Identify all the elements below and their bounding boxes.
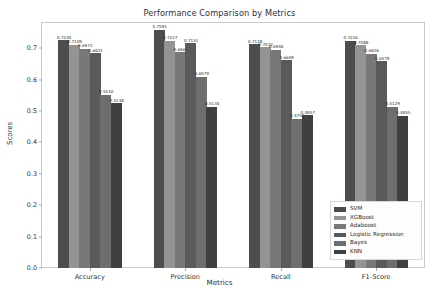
bar-value-label: 0.6828 [365, 49, 379, 53]
bar: 0.5510 [100, 95, 111, 268]
legend-label: Adaboost [350, 223, 376, 229]
y-axis-tick-label: 0.2 [27, 201, 42, 209]
bar: 0.4758 [291, 119, 302, 268]
chart-figure: Performance Comparison by Metrics Scores… [0, 0, 439, 298]
bar: 0.5238 [111, 103, 122, 268]
legend-swatch-icon [334, 224, 346, 229]
legend-item-logistic-regression[interactable]: Logistic Regression [334, 231, 417, 240]
bar-value-label: 0.4857 [301, 111, 315, 115]
bar: 0.5134 [206, 107, 217, 268]
x-axis-label: Metrics [0, 278, 439, 287]
bar-value-label: 0.6579 [375, 57, 389, 61]
bar: 0.4857 [302, 115, 313, 268]
legend-item-adaboost[interactable]: Adaboost [334, 222, 417, 231]
legend-label: XGBoost [350, 215, 374, 221]
legend-label: SVM [350, 206, 362, 212]
bar: 0.7151 [185, 43, 196, 268]
bar-value-label: 0.6609 [280, 56, 294, 60]
y-axis-label: Scores [6, 122, 14, 145]
legend: SVMXGBoostAdaboostLogistic RegressionBay… [330, 201, 422, 260]
bar-value-label: 0.7088 [354, 41, 368, 45]
bar: 0.7245 [58, 40, 69, 268]
bar: 0.6973 [79, 49, 90, 268]
bar-value-label: 0.6831 [89, 49, 103, 53]
bar: 0.6831 [90, 53, 101, 268]
y-axis-tick-label: 0.1 [27, 233, 42, 241]
bar: 0.7591 [154, 30, 165, 268]
legend-swatch-icon [334, 241, 346, 246]
legend-label: Logistic Regression [350, 232, 404, 238]
legend-label: KNN [350, 249, 362, 255]
y-axis-tick-label: 0.7 [27, 44, 42, 52]
y-axis-tick-label: 0.4 [27, 138, 42, 146]
chart-title: Performance Comparison by Metrics [0, 8, 439, 18]
legend-label: Bayes [350, 240, 367, 246]
bar-value-label: 0.4855 [396, 111, 410, 115]
bar-value-label: 0.5129 [386, 102, 400, 106]
legend-swatch-icon [334, 233, 346, 238]
bar: 0.7227 [164, 41, 175, 268]
bar-value-label: 0.7227 [163, 36, 177, 40]
bar-value-label: 0.7591 [153, 25, 167, 29]
bar: 0.7128 [249, 44, 260, 268]
y-axis-tick-label: 0.0 [27, 264, 42, 272]
legend-item-bayes[interactable]: Bayes [334, 239, 417, 248]
legend-swatch-icon [334, 216, 346, 221]
y-axis-tick-label: 0.3 [27, 170, 42, 178]
bar-value-label: 0.5510 [99, 90, 113, 94]
bar-value-label: 0.7151 [184, 39, 198, 43]
bar: 0.6948 [270, 50, 281, 268]
y-axis-tick-label: 0.6 [27, 76, 42, 84]
bar-value-label: 0.5134 [205, 102, 219, 106]
legend-item-knn[interactable]: KNN [334, 248, 417, 257]
bar-value-label: 0.6948 [269, 45, 283, 49]
bar-value-label: 0.5238 [110, 99, 124, 103]
legend-swatch-icon [334, 207, 346, 212]
bar-value-label: 0.6079 [195, 72, 209, 76]
legend-item-svm[interactable]: SVM [334, 205, 417, 214]
bar: 0.7032 [260, 47, 271, 268]
bar: 0.7109 [69, 45, 80, 268]
bar: 0.6868 [175, 52, 186, 268]
bar: 0.6609 [281, 60, 292, 268]
legend-swatch-icon [334, 250, 346, 255]
legend-item-xgboost[interactable]: XGBoost [334, 214, 417, 223]
y-axis-tick-label: 0.5 [27, 107, 42, 115]
